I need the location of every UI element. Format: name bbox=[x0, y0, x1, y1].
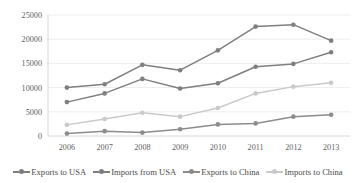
legend-item-exports-to-china[interactable]: Exports to China bbox=[183, 167, 259, 177]
data-point-exports-to-china bbox=[65, 131, 70, 136]
data-point-exports-to-china bbox=[253, 121, 258, 126]
data-point-imports-from-usa bbox=[140, 77, 145, 82]
data-point-exports-to-china bbox=[178, 127, 183, 132]
legend-label: Exports to China bbox=[201, 167, 259, 177]
legend-item-imports-to-china[interactable]: Imports to China bbox=[266, 167, 342, 177]
legend-item-exports-to-usa[interactable]: Exports to USA bbox=[13, 167, 86, 177]
data-point-imports-from-usa bbox=[178, 86, 183, 91]
legend-marker-icon bbox=[272, 169, 277, 174]
x-tick-label: 2010 bbox=[210, 143, 226, 152]
x-tick-label: 2011 bbox=[248, 143, 264, 152]
legend-label: Exports to USA bbox=[31, 167, 86, 177]
x-tick-label: 2009 bbox=[172, 143, 188, 152]
data-point-imports-to-china bbox=[140, 110, 145, 115]
legend-label: Imports from USA bbox=[111, 167, 176, 177]
data-point-exports-to-usa bbox=[253, 24, 258, 29]
legend-label: Imports to China bbox=[284, 167, 342, 177]
legend-item-imports-from-usa[interactable]: Imports from USA bbox=[93, 167, 176, 177]
x-tick-label: 2012 bbox=[285, 143, 301, 152]
data-point-exports-to-usa bbox=[178, 68, 183, 73]
x-tick-label: 2008 bbox=[134, 143, 150, 152]
legend-marker-icon bbox=[19, 169, 24, 174]
data-point-imports-from-usa bbox=[216, 81, 221, 86]
data-point-imports-from-usa bbox=[65, 100, 70, 105]
x-tick-label: 2006 bbox=[59, 143, 75, 152]
data-point-imports-from-usa bbox=[102, 91, 107, 96]
data-point-imports-to-china bbox=[216, 106, 221, 111]
data-point-exports-to-china bbox=[102, 129, 107, 134]
legend-marker-icon bbox=[189, 169, 194, 174]
gridlines bbox=[48, 15, 350, 136]
y-tick-label: 25000 bbox=[22, 11, 42, 20]
plot-area: 0500010000150002000025000 20062007200820… bbox=[0, 0, 356, 161]
data-point-imports-from-usa bbox=[291, 62, 296, 67]
data-point-imports-to-china bbox=[253, 91, 258, 96]
data-point-exports-to-china bbox=[216, 122, 221, 127]
y-tick-label: 0 bbox=[38, 132, 42, 141]
data-point-exports-to-usa bbox=[140, 63, 145, 68]
legend-swatch-imports-from-usa bbox=[93, 168, 110, 177]
legend-swatch-imports-to-china bbox=[266, 168, 283, 177]
data-point-exports-to-china bbox=[291, 114, 296, 119]
data-point-exports-to-usa bbox=[291, 22, 296, 27]
data-point-exports-to-usa bbox=[216, 48, 221, 53]
series-line-exports-to-usa bbox=[67, 25, 331, 88]
y-tick-label: 10000 bbox=[22, 84, 42, 93]
y-tick-label: 5000 bbox=[26, 108, 42, 117]
data-point-exports-to-usa bbox=[102, 82, 107, 87]
chart-legend: Exports to USA Imports from USA Exports … bbox=[0, 161, 356, 183]
legend-swatch-exports-to-china bbox=[183, 168, 200, 177]
y-tick-label: 15000 bbox=[22, 59, 42, 68]
y-tick-label: 20000 bbox=[22, 35, 42, 44]
legend-swatch-exports-to-usa bbox=[13, 168, 30, 177]
legend-marker-icon bbox=[99, 169, 104, 174]
y-axis-tick-labels: 0500010000150002000025000 bbox=[22, 11, 42, 141]
data-point-imports-to-china bbox=[65, 123, 70, 128]
x-tick-label: 2007 bbox=[96, 143, 112, 152]
data-point-imports-from-usa bbox=[253, 64, 258, 69]
data-point-imports-to-china bbox=[178, 114, 183, 119]
data-point-exports-to-usa bbox=[65, 85, 70, 90]
data-point-imports-from-usa bbox=[329, 50, 334, 55]
x-tick-label: 2013 bbox=[323, 143, 339, 152]
x-axis-tick-labels: 20062007200820092010201120122013 bbox=[59, 143, 340, 152]
data-point-imports-to-china bbox=[102, 117, 107, 122]
data-point-exports-to-usa bbox=[329, 38, 334, 43]
data-point-exports-to-china bbox=[329, 112, 334, 117]
data-point-imports-to-china bbox=[329, 80, 334, 85]
data-point-exports-to-china bbox=[140, 130, 145, 135]
data-point-imports-to-china bbox=[291, 84, 296, 89]
line-chart: 0500010000150002000025000 20062007200820… bbox=[0, 0, 356, 183]
